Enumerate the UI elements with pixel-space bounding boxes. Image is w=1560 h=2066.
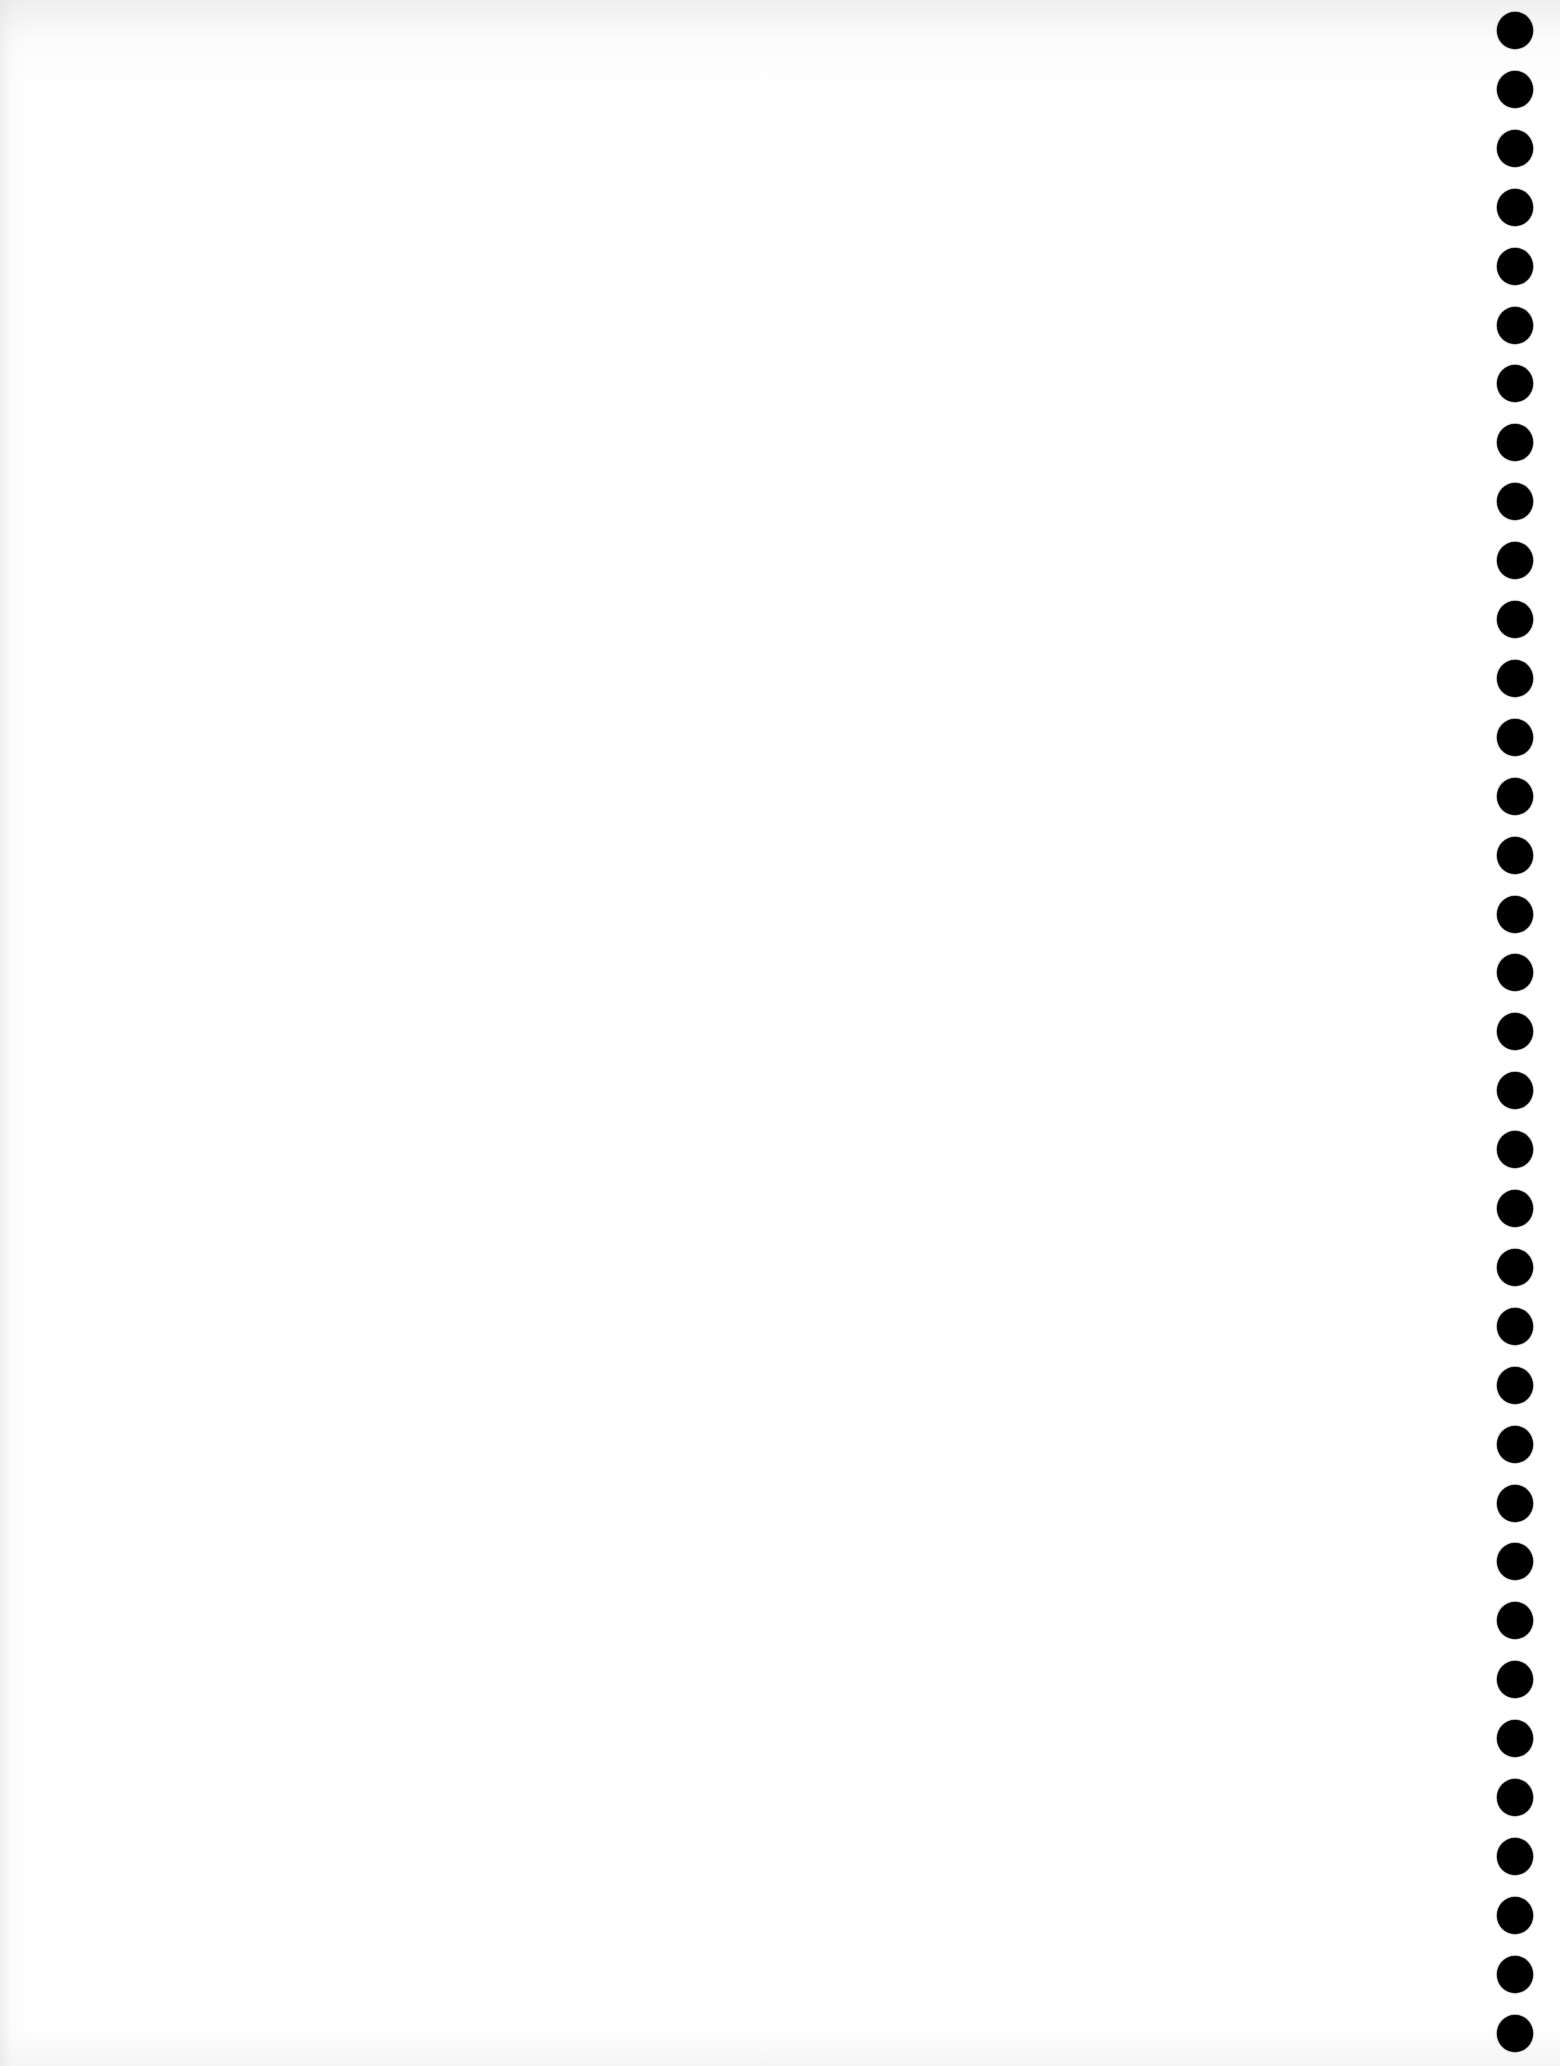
punch-hole-icon (1497, 483, 1533, 520)
punch-hole-icon (1497, 1485, 1533, 1522)
punch-hole-icon (1497, 1838, 1533, 1875)
punch-hole-icon (1497, 1720, 1533, 1757)
punch-hole-icon (1497, 1602, 1533, 1639)
punch-hole-icon (1497, 1897, 1533, 1934)
punch-hole-icon (1497, 1956, 1533, 1993)
punch-hole-icon (1497, 1367, 1533, 1404)
punch-hole-icon (1497, 189, 1533, 226)
punch-hole-icon (1497, 2015, 1533, 2052)
blank-page (0, 0, 1560, 2066)
punch-hole-icon (1497, 719, 1533, 756)
punch-hole-icon (1497, 896, 1533, 933)
punch-hole-icon (1497, 1131, 1533, 1168)
punch-hole-icon (1497, 1013, 1533, 1050)
punch-hole-icon (1497, 1190, 1533, 1227)
punch-hole-icon (1497, 1308, 1533, 1345)
punch-hole-icon (1497, 837, 1533, 874)
punch-hole-icon (1497, 12, 1533, 49)
punch-hole-icon (1497, 601, 1533, 638)
punch-hole-icon (1497, 778, 1533, 815)
punch-hole-icon (1497, 130, 1533, 167)
punch-hole-icon (1497, 71, 1533, 108)
punch-hole-icon (1497, 1543, 1533, 1580)
punch-hole-icon (1497, 1426, 1533, 1463)
punch-hole-icon (1497, 1779, 1533, 1816)
punch-hole-icon (1497, 307, 1533, 344)
punch-hole-icon (1497, 1249, 1533, 1286)
punch-hole-icon (1497, 248, 1533, 285)
punch-hole-icon (1497, 1072, 1533, 1109)
punch-hole-icon (1497, 1661, 1533, 1698)
punch-hole-icon (1497, 542, 1533, 579)
punch-hole-icon (1497, 660, 1533, 697)
punch-hole-icon (1497, 424, 1533, 461)
punch-hole-column (1497, 0, 1537, 2050)
punch-hole-icon (1497, 954, 1533, 991)
punch-hole-icon (1497, 365, 1533, 402)
